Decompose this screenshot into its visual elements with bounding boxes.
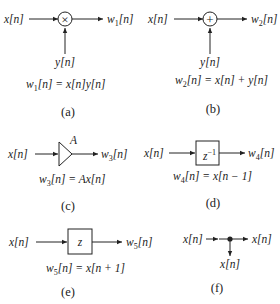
panel-b-input-label: x[n] bbox=[147, 13, 168, 25]
panel-d-equation: w4[n] = x[n − 1] bbox=[173, 170, 252, 185]
panel-c-gain-label: A bbox=[69, 134, 78, 146]
panel-c-input-label: x[n] bbox=[7, 148, 28, 160]
panel-b-output-label: w2[n] bbox=[251, 13, 277, 28]
multiply-icon: × bbox=[61, 12, 68, 27]
panel-f-output-down-label: x[n] bbox=[219, 258, 240, 270]
panel-a-equation: w1[n] = x[n]y[n] bbox=[26, 78, 106, 93]
panel-f-output-right-label: x[n] bbox=[251, 233, 272, 245]
panel-f-input-label: x[n] bbox=[182, 233, 203, 245]
advance-block-label: z bbox=[77, 236, 83, 248]
panel-d-caption: (d) bbox=[206, 196, 221, 210]
panel-a-caption: (a) bbox=[61, 105, 75, 119]
panel-c-gain: x[n] A w3[n] w3[n] = Ax[n] (c) bbox=[7, 134, 127, 213]
panel-a-output-label: w1[n] bbox=[107, 13, 133, 28]
panel-d-unit-delay: x[n] z−1 w4[n] w4[n] = x[n − 1] (d) bbox=[143, 141, 274, 210]
panel-e-input-label: x[n] bbox=[8, 236, 29, 248]
panel-e-unit-advance: x[n] z w5[n] w5[n] = x[n + 1] (e) bbox=[8, 229, 152, 299]
panel-c-equation: w3[n] = Ax[n] bbox=[39, 173, 106, 188]
block-diagram-figure: x[n] × w1[n] y[n] w1[n] = x[n]y[n] (a) x… bbox=[0, 0, 280, 304]
panel-b-caption: (b) bbox=[206, 102, 221, 116]
panel-f-caption: (f) bbox=[211, 281, 224, 295]
panel-c-caption: (c) bbox=[61, 199, 75, 213]
panel-b-adder: x[n] + w2[n] y[n] w2[n] = x[n] + y[n] (b… bbox=[147, 12, 277, 117]
panel-b-side-input-label: y[n] bbox=[199, 56, 220, 69]
panel-a-multiplier: x[n] × w1[n] y[n] w1[n] = x[n]y[n] (a) bbox=[3, 12, 133, 120]
panel-c-output-label: w3[n] bbox=[101, 148, 127, 163]
panel-e-output-label: w5[n] bbox=[126, 236, 152, 251]
panel-e-caption: (e) bbox=[61, 285, 75, 299]
panel-f-pickoff: x[n] x[n] x[n] (f) bbox=[182, 233, 272, 295]
panel-a-side-input-label: y[n] bbox=[54, 56, 75, 69]
panel-a-input-label: x[n] bbox=[3, 13, 24, 25]
panel-b-equation: w2[n] = x[n] + y[n] bbox=[175, 74, 268, 89]
panel-d-output-label: w4[n] bbox=[248, 147, 274, 162]
panel-d-input-label: x[n] bbox=[143, 147, 164, 159]
plus-icon: + bbox=[206, 12, 213, 27]
panel-e-equation: w5[n] = x[n + 1] bbox=[46, 262, 125, 277]
